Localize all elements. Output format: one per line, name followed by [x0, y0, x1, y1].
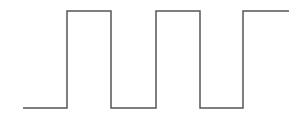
square-wave-diagram: [0, 0, 307, 120]
waveform-canvas: [0, 0, 307, 120]
square-wave-line: [23, 11, 289, 108]
